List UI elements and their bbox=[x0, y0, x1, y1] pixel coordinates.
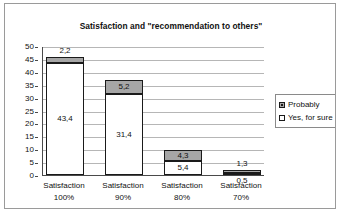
y-tick-label: 30 bbox=[25, 95, 34, 103]
bar-group[interactable]: 43,4 2,2 bbox=[46, 57, 84, 175]
legend-swatch-icon bbox=[279, 115, 285, 121]
chart-title: Satisfaction and "recommendation to othe… bbox=[5, 21, 336, 31]
y-tick-label: 15 bbox=[25, 133, 34, 141]
y-tick-mark bbox=[35, 124, 38, 125]
bar-value-label: 31,4 bbox=[106, 131, 142, 139]
bar-value-label: 1,3 bbox=[224, 160, 260, 168]
bar-value-label: 4,3 bbox=[165, 152, 201, 160]
y-tick-label: 25 bbox=[25, 108, 34, 116]
x-axis-category-label: Satisfaction 80% bbox=[152, 180, 212, 203]
y-tick-label: 10 bbox=[25, 146, 34, 154]
x-axis-category-label: Satisfaction 70% bbox=[211, 180, 271, 203]
x-axis-category-line: 90% bbox=[93, 192, 153, 204]
y-tick-label: 20 bbox=[25, 120, 34, 128]
y-tick-mark bbox=[35, 47, 38, 48]
x-axis-category-label: Satisfaction 100% bbox=[34, 180, 94, 203]
x-axis-category-line: Satisfaction bbox=[152, 180, 212, 192]
y-tick-label: 0 bbox=[30, 172, 34, 180]
x-axis-category-line: 100% bbox=[34, 192, 94, 204]
y-tick-mark bbox=[35, 112, 38, 113]
y-tick-label: 35 bbox=[25, 82, 34, 90]
x-axis-category-label: Satisfaction 90% bbox=[93, 180, 153, 203]
x-axis-category-line: Satisfaction bbox=[211, 180, 271, 192]
bar-value-label: 5,4 bbox=[165, 164, 201, 172]
y-tick-mark bbox=[35, 150, 38, 151]
y-tick-mark bbox=[35, 86, 38, 87]
chart-container: Satisfaction and "recommendation to othe… bbox=[4, 3, 336, 209]
legend-item-yes-for-sure[interactable]: Yes, for sure bbox=[279, 111, 336, 124]
legend-item-probably[interactable]: Probably bbox=[279, 98, 336, 111]
bar-group[interactable]: 5,4 4,3 bbox=[164, 150, 202, 175]
bar-segment-yes-for-sure[interactable]: 0,5 bbox=[223, 173, 261, 175]
bar-segment-probably[interactable]: 4,3 bbox=[164, 150, 202, 161]
bar-value-label: 2,2 bbox=[47, 47, 83, 55]
x-axis-category-line: 80% bbox=[152, 192, 212, 204]
bar-segment-probably[interactable]: 1,3 bbox=[223, 170, 261, 173]
plot-area: 43,4 2,2 31,4 5,2 5,4 4,3 bbox=[42, 47, 264, 176]
x-axis-category-line: Satisfaction bbox=[34, 180, 94, 192]
y-tick-label: 50 bbox=[25, 43, 34, 51]
bar-segment-yes-for-sure[interactable]: 5,4 bbox=[164, 161, 202, 175]
x-axis-category-line: Satisfaction bbox=[93, 180, 153, 192]
x-axis: Satisfaction 100% Satisfaction 90% Satis… bbox=[42, 180, 264, 208]
x-axis-category-line: 70% bbox=[211, 192, 271, 204]
y-tick-mark bbox=[35, 163, 38, 164]
y-tick-label: 40 bbox=[25, 69, 34, 77]
bar-group[interactable]: 31,4 5,2 bbox=[105, 80, 143, 175]
legend-item-label: Yes, for sure bbox=[288, 114, 333, 122]
bar-segment-yes-for-sure[interactable]: 31,4 bbox=[105, 94, 143, 175]
legend-swatch-icon bbox=[279, 102, 285, 108]
bar-value-label: 43,4 bbox=[47, 115, 83, 123]
chart-legend: Probably Yes, for sure bbox=[275, 94, 336, 128]
y-tick-mark bbox=[35, 60, 38, 61]
y-tick-mark bbox=[35, 137, 38, 138]
y-tick-label: 5 bbox=[30, 159, 34, 167]
y-tick-mark bbox=[35, 73, 38, 74]
bar-group[interactable]: 0,5 1,3 bbox=[223, 170, 261, 175]
y-tick-mark bbox=[35, 176, 38, 177]
y-axis: 50 45 40 35 30 25 20 15 10 5 0 bbox=[11, 47, 38, 176]
bar-segment-yes-for-sure[interactable]: 43,4 bbox=[46, 63, 84, 175]
y-tick-mark bbox=[35, 99, 38, 100]
bar-segment-probably[interactable]: 5,2 bbox=[105, 80, 143, 94]
bar-segment-probably[interactable]: 2,2 bbox=[46, 57, 84, 63]
y-tick-label: 45 bbox=[25, 56, 34, 64]
legend-item-label: Probably bbox=[288, 101, 320, 109]
bar-value-label: 5,2 bbox=[106, 83, 142, 91]
